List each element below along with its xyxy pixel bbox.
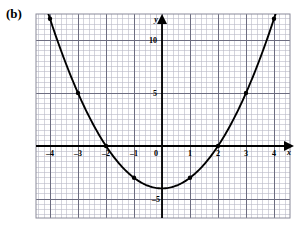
x-axis-label: x <box>286 148 291 157</box>
x-tick-label: 0 <box>154 149 158 158</box>
y-axis-label: y <box>153 15 158 24</box>
plot-area: –4–3–2–101234 510–5 x y <box>0 0 298 242</box>
x-tick-label: 3 <box>244 149 248 158</box>
x-tick-label: 2 <box>216 149 220 158</box>
y-tick-label: 10 <box>149 36 157 45</box>
x-tick-label: 4 <box>272 149 276 158</box>
graph-svg: –4–3–2–101234 510–5 x y <box>0 0 298 242</box>
x-tick-label: –4 <box>45 149 54 158</box>
figure-panel: (b) <box>0 0 298 242</box>
x-tick-label: –3 <box>73 149 82 158</box>
x-tick-label: –2 <box>101 149 110 158</box>
x-tick-label: –1 <box>129 149 138 158</box>
y-tick-label: –5 <box>151 195 160 204</box>
x-tick-label: 1 <box>188 149 192 158</box>
y-tick-label: 5 <box>153 89 157 98</box>
